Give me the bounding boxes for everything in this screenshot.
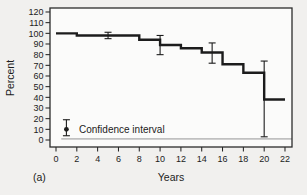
y-tick-label: 0 bbox=[38, 135, 43, 145]
y-tick-label: 10 bbox=[33, 125, 43, 135]
x-tick-label: 16 bbox=[218, 154, 228, 164]
x-tick-label: 6 bbox=[116, 154, 121, 164]
panel-label: (a) bbox=[33, 171, 46, 183]
y-tick-label: 110 bbox=[29, 18, 43, 28]
x-tick-label: 2 bbox=[74, 154, 79, 164]
x-tick-label: 10 bbox=[155, 154, 165, 164]
y-tick-label: 120 bbox=[28, 7, 43, 17]
y-tick-label: 90 bbox=[33, 39, 43, 49]
y-tick-label: 20 bbox=[33, 114, 43, 124]
y-tick-label: 70 bbox=[33, 61, 43, 71]
y-axis-title: Percent bbox=[4, 60, 16, 96]
y-tick-label: 100 bbox=[28, 29, 43, 39]
y-tick-label: 80 bbox=[33, 50, 43, 60]
x-tick-label: 20 bbox=[259, 154, 269, 164]
x-tick-label: 14 bbox=[197, 154, 207, 164]
y-tick-label: 60 bbox=[33, 71, 43, 81]
legend-label: Confidence interval bbox=[79, 124, 165, 135]
y-tick-label: 40 bbox=[33, 93, 43, 103]
x-tick-label: 18 bbox=[238, 154, 248, 164]
y-tick-label: 50 bbox=[33, 82, 43, 92]
figure-panel: 0102030405060708090100110120024681012141… bbox=[0, 0, 307, 195]
x-tick-label: 22 bbox=[280, 154, 290, 164]
x-tick-label: 12 bbox=[176, 154, 186, 164]
x-tick-label: 0 bbox=[53, 154, 58, 164]
x-tick-label: 8 bbox=[137, 154, 142, 164]
survival-chart: 0102030405060708090100110120024681012141… bbox=[0, 0, 307, 195]
legend-dot bbox=[64, 127, 69, 132]
x-axis-title: Years bbox=[158, 171, 184, 183]
x-tick-label: 4 bbox=[95, 154, 100, 164]
y-tick-label: 30 bbox=[33, 103, 43, 113]
